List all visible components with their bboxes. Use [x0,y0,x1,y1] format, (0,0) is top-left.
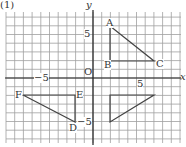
point-e-label: E [76,90,83,100]
point-b-label: B [104,60,111,70]
tick-y-neg5: −5 [77,117,92,127]
point-a-label: A [106,18,113,28]
coordinate-grid [0,0,186,147]
tick-x-5: 5 [137,79,143,89]
tick-x-neg5: −5 [34,73,49,83]
x-axis-label: x [180,72,186,82]
origin-label: O [84,67,92,77]
y-axis-label: y [86,0,92,10]
point-d-label: D [69,123,77,133]
triangle-unlabeled [110,95,154,122]
tick-y-5: 5 [84,29,90,39]
point-f-label: F [15,90,22,100]
point-c-label: C [156,59,164,69]
problem-label: (1) [0,0,14,10]
